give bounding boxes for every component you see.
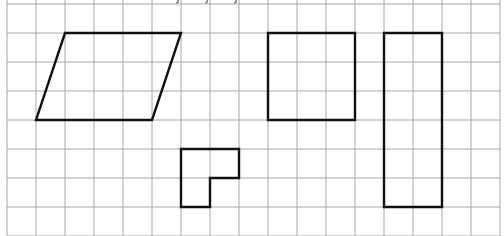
- grid-diagram: [0, 0, 504, 236]
- parallelogram: [36, 33, 181, 120]
- cropped-title-fragments: [176, 0, 236, 3]
- square: [268, 33, 355, 120]
- grid-lines: [7, 0, 500, 236]
